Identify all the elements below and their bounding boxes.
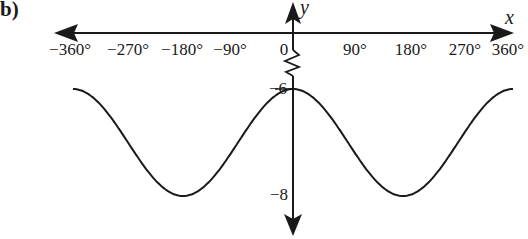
x-tick-minus-270: −270° — [107, 40, 149, 60]
x-tick-minus-90: −90° — [213, 40, 246, 60]
x-tick-270: 270° — [449, 40, 481, 60]
x-tick-90: 90° — [343, 40, 367, 60]
x-tick-minus-360: −360° — [49, 40, 91, 60]
part-label: b) — [0, 0, 19, 22]
y-tick-label-minus6: −6 — [269, 79, 287, 99]
x-tick-minus-180: −180° — [161, 40, 203, 60]
x-axis-label: x — [505, 6, 514, 29]
cosine-graph: b) y x −360° −270° −180° −90° 0 90° 180°… — [0, 0, 528, 239]
graph-canvas — [0, 0, 528, 239]
y-axis-label: y — [300, 0, 309, 19]
y-tick-label-minus8: −8 — [270, 185, 288, 205]
x-tick-360: 360° — [492, 40, 524, 60]
x-tick-180: 180° — [395, 40, 427, 60]
origin-label: 0 — [280, 40, 289, 60]
